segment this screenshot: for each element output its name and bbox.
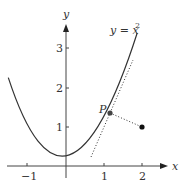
chart-canvas: −1 1 2 1 2 3 x y P y = x 2 xyxy=(0,0,190,193)
x-tick-label-1: 1 xyxy=(101,170,108,183)
point-p xyxy=(107,110,112,115)
tangent-line xyxy=(91,60,133,157)
x-axis-label: x xyxy=(172,160,179,173)
distance-segment xyxy=(110,113,142,127)
x-axis-arrow-icon xyxy=(160,163,168,169)
point-2-1 xyxy=(139,124,144,129)
x-tick-label-2: 2 xyxy=(139,170,146,183)
x-tick-label-neg1: −1 xyxy=(21,170,37,183)
y-tick-label-3: 3 xyxy=(56,42,63,55)
y-tick-label-1: 1 xyxy=(56,121,63,134)
y-axis-arrow-icon xyxy=(63,24,69,32)
parabola-curve xyxy=(8,33,137,156)
curve-label-exponent: 2 xyxy=(135,21,140,30)
y-axis-label: y xyxy=(62,8,70,21)
y-tick-label-2: 2 xyxy=(56,82,63,95)
point-p-label: P xyxy=(98,103,107,116)
